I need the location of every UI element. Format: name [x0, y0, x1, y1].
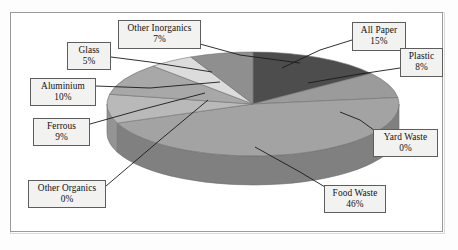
pie-label-other-organics-name: Other Organics: [38, 183, 96, 193]
pie-label-other-organics: Other Organics 0%: [28, 180, 106, 208]
pie-label-aluminium-name: Aluminium: [41, 81, 85, 91]
pie-label-glass-value: 5%: [72, 56, 106, 67]
chart-figure: Glass 5% Other Inorganics 7% Aluminium 1…: [0, 0, 458, 250]
pie-label-other-inorganics: Other Inorganics 7%: [118, 20, 201, 49]
pie-label-aluminium-value: 10%: [35, 92, 91, 103]
pie-top-surface: [107, 52, 399, 156]
pie-label-yard-waste: Yard Waste 0%: [373, 129, 438, 157]
pie-label-glass: Glass 5%: [67, 42, 111, 70]
pie-label-food-waste-value: 46%: [329, 199, 381, 210]
pie-label-all-paper: All Paper 15%: [352, 22, 406, 51]
pie-label-ferrous: Ferrous 9%: [33, 118, 90, 146]
pie-label-yard-waste-value: 0%: [378, 143, 433, 154]
pie-label-all-paper-name: All Paper: [361, 25, 397, 35]
pie-label-plastic-value: 8%: [405, 62, 438, 73]
pie-label-plastic: Plastic 8%: [400, 48, 443, 77]
pie-label-all-paper-value: 15%: [357, 36, 401, 47]
pie-label-other-inorganics-value: 7%: [123, 34, 196, 45]
pie-label-ferrous-name: Ferrous: [47, 121, 76, 131]
pie-label-glass-name: Glass: [78, 45, 99, 55]
pie-label-food-waste-name: Food Waste: [333, 188, 378, 198]
pie-label-yard-waste-name: Yard Waste: [384, 132, 427, 142]
pie-label-other-inorganics-name: Other Inorganics: [127, 23, 191, 33]
pie-label-plastic-name: Plastic: [409, 51, 435, 61]
pie-label-other-organics-value: 0%: [33, 194, 101, 205]
pie-label-ferrous-value: 9%: [38, 132, 85, 143]
pie-label-aluminium: Aluminium 10%: [30, 78, 96, 106]
pie-label-food-waste: Food Waste 46%: [324, 185, 386, 213]
